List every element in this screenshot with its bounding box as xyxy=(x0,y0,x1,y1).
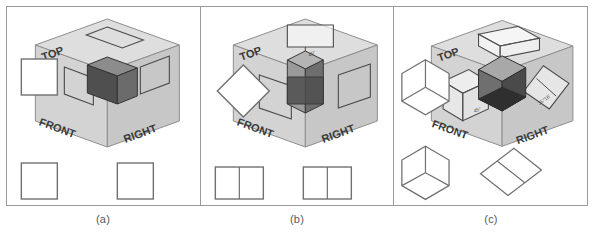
front-view-a xyxy=(21,163,57,199)
top-view-a xyxy=(21,59,57,95)
panel-c: 45° 35°16' TOP FRONT RIGHT xyxy=(393,7,587,205)
right-view-a xyxy=(117,163,153,199)
projection-top-b xyxy=(287,25,333,47)
panel-b: 45° TOP FRONT RIGHT xyxy=(200,7,394,205)
front-view-c xyxy=(402,146,449,199)
caption-c: (c) xyxy=(394,208,588,234)
right-view-b xyxy=(303,167,351,199)
caption-a: (a) xyxy=(6,208,200,234)
panel-row: TOP FRONT RIGHT xyxy=(6,6,588,206)
caption-b: (b) xyxy=(200,208,394,234)
right-view-c xyxy=(481,148,542,195)
caption-row: (a) (b) (c) xyxy=(6,208,588,234)
figure-glass-box-projections: TOP FRONT RIGHT xyxy=(0,0,594,240)
glass-box-c: 45° 35°16' TOP FRONT RIGHT xyxy=(431,20,573,146)
panel-a: TOP FRONT RIGHT xyxy=(7,7,200,205)
front-view-b xyxy=(215,167,263,199)
object-lower-band-b xyxy=(287,77,323,104)
